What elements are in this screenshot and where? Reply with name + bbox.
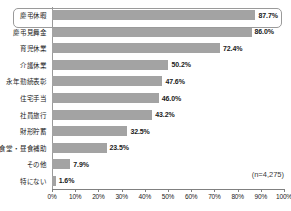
category-label: 永年勤続表彰 (0, 73, 50, 90)
bar-row: 72.4% (52, 40, 284, 57)
bar (52, 143, 107, 153)
bar-value-label: 7.9% (73, 161, 89, 168)
x-axis-tick (191, 189, 192, 192)
bar (52, 176, 56, 186)
x-axis-tick-label: 90% (255, 193, 267, 200)
category-axis-labels: 慶弔休暇慶弔見舞金育児休業介護休業永年勤続表彰住宅手当社員旅行財形貯蓄食堂・昼食… (0, 7, 50, 189)
bar-row: 50.2% (52, 57, 284, 74)
x-axis-ticks (52, 189, 284, 192)
x-axis-tick (98, 189, 99, 192)
category-label: その他 (0, 156, 50, 173)
x-axis-tick (238, 189, 239, 192)
x-axis-tick (122, 189, 123, 192)
x-axis-tick (284, 189, 285, 192)
bar-value-label: 47.6% (165, 78, 184, 85)
category-label: 財形貯蓄 (0, 123, 50, 140)
bar-value-label: 43.2% (155, 111, 174, 118)
bar-row: 32.5% (52, 123, 284, 140)
bar-chart: 慶弔休暇慶弔見舞金育児休業介護休業永年勤続表彰住宅手当社員旅行財形貯蓄食堂・昼食… (0, 0, 291, 211)
x-axis-tick (214, 189, 215, 192)
bar-value-label: 32.5% (130, 128, 149, 135)
bar-value-label: 23.5% (110, 144, 129, 151)
bar-row: 46.0% (52, 90, 284, 107)
category-label: 特にない (0, 172, 50, 189)
bar-row: 23.5% (52, 139, 284, 156)
bar-rows: 87.7%86.0%72.4%50.2%47.6%46.0%43.2%32.5%… (52, 7, 284, 189)
bar-row: 1.6% (52, 172, 284, 189)
x-axis-tick-label: 20% (92, 193, 104, 200)
x-axis-tick (75, 189, 76, 192)
category-label: 社員旅行 (0, 106, 50, 123)
x-axis-tick (52, 189, 53, 192)
category-label: 介護休業 (0, 57, 50, 74)
x-axis-tick-label: 70% (208, 193, 220, 200)
bar-row: 86.0% (52, 24, 284, 41)
bar (52, 43, 220, 53)
x-axis-tick (168, 189, 169, 192)
bar-row: 7.9% (52, 156, 284, 173)
bar (52, 93, 159, 103)
x-axis-tick-label: 40% (139, 193, 151, 200)
bar (52, 27, 252, 37)
sample-size-note: (n=4,275) (252, 170, 284, 179)
category-label: 食堂・昼食補助 (0, 139, 50, 156)
plot-area: 87.7%86.0%72.4%50.2%47.6%46.0%43.2%32.5%… (52, 7, 284, 189)
x-axis-tick-label: 10% (69, 193, 81, 200)
category-label: 育児休業 (0, 40, 50, 57)
bar-value-label: 1.6% (59, 177, 75, 184)
x-axis-tick-label: 100% (276, 193, 291, 200)
x-axis-tick (145, 189, 146, 192)
bar-value-label: 46.0% (162, 95, 181, 102)
category-label: 慶弔見舞金 (0, 24, 50, 41)
bar (52, 76, 162, 86)
bar (52, 159, 70, 169)
x-axis-tick-label: 30% (115, 193, 127, 200)
category-label: 住宅手当 (0, 90, 50, 107)
bar (52, 126, 127, 136)
x-axis-tick-labels: 0%10%20%30%40%50%60%70%80%90%100% (52, 193, 284, 205)
bar (52, 10, 255, 20)
bar (52, 60, 168, 70)
bar-row: 87.7% (52, 7, 284, 24)
bar-value-label: 87.7% (258, 12, 277, 19)
bar-row: 47.6% (52, 73, 284, 90)
category-label: 慶弔休暇 (0, 7, 50, 24)
bar (52, 110, 152, 120)
x-axis-tick-label: 60% (185, 193, 197, 200)
x-axis-tick-label: 80% (231, 193, 243, 200)
bar-value-label: 50.2% (171, 61, 190, 68)
bar-value-label: 72.4% (223, 45, 242, 52)
x-axis-tick-label: 0% (48, 193, 57, 200)
x-axis-tick (261, 189, 262, 192)
bar-value-label: 86.0% (255, 28, 274, 35)
bar-row: 43.2% (52, 106, 284, 123)
x-axis-tick-label: 50% (162, 193, 174, 200)
